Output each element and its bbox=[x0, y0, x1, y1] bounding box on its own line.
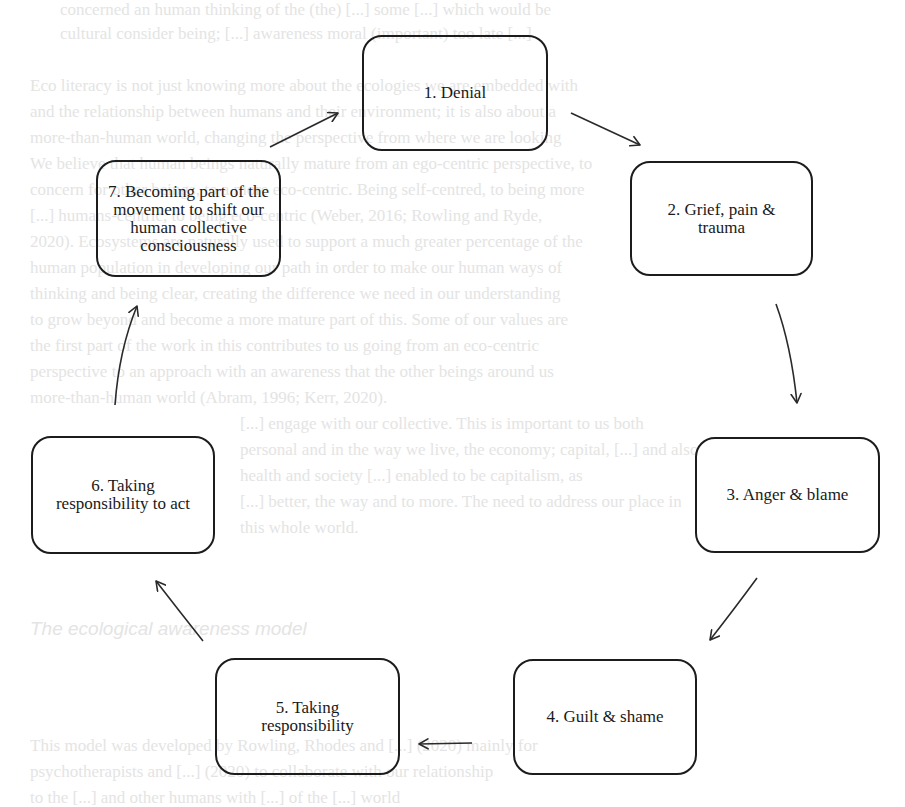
stage-3-label: 3. Anger & blame bbox=[721, 486, 855, 504]
stage-2-grief-pain-trauma: 2. Grief, pain & trauma bbox=[630, 161, 813, 276]
stage-7-label: 7. Becoming part of the movement to shif… bbox=[98, 183, 279, 255]
arrow-4-to-5 bbox=[419, 743, 472, 744]
stage-4-label: 4. Guilt & shame bbox=[540, 708, 669, 726]
stage-7-becoming-part-of-movement: 7. Becoming part of the movement to shif… bbox=[96, 160, 281, 277]
arrow-7-to-1 bbox=[270, 113, 338, 147]
stage-4-guilt-shame: 4. Guilt & shame bbox=[513, 659, 697, 775]
stage-3-anger-blame: 3. Anger & blame bbox=[695, 437, 880, 553]
stage-1-label: 1. Denial bbox=[418, 84, 492, 102]
arrow-2-to-3 bbox=[776, 304, 797, 403]
stage-5-label: 5. Taking responsibility bbox=[247, 699, 369, 735]
arrow-6-to-7 bbox=[115, 306, 137, 405]
stage-5-taking-responsibility: 5. Taking responsibility bbox=[215, 658, 400, 775]
arrow-5-to-6 bbox=[156, 581, 203, 641]
stage-6-taking-responsibility-to-act: 6. Taking responsibility to act bbox=[31, 436, 215, 554]
stage-6-label: 6. Taking responsibility to act bbox=[37, 477, 209, 513]
stage-1-denial: 1. Denial bbox=[362, 35, 548, 151]
arrow-3-to-4 bbox=[710, 578, 757, 640]
arrow-1-to-2 bbox=[571, 113, 640, 145]
stage-2-label: 2. Grief, pain & trauma bbox=[646, 201, 798, 237]
